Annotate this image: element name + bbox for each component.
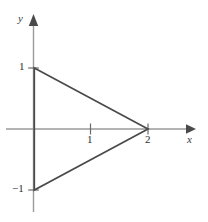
x-axis-label: x [187, 134, 192, 145]
y-axis-arrowhead [29, 14, 38, 26]
x-tick-label-1: 1 [87, 134, 93, 145]
x-tick-label-2: 2 [145, 134, 151, 145]
y-tick-label-minus-1: −1 [12, 183, 24, 194]
y-axis-label: y [18, 13, 23, 24]
coordinate-plot-figure: y x 1 −1 1 2 [0, 0, 208, 222]
y-tick-label-1: 1 [19, 61, 25, 72]
plot-canvas [0, 0, 208, 222]
